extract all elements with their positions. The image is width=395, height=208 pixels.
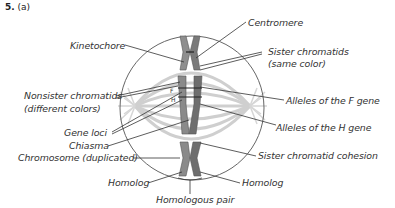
- label-alleles-f: Alleles of the F gene: [286, 96, 380, 105]
- chromosome-top: [180, 36, 200, 70]
- label-gene-loci: Gene loci: [64, 128, 107, 137]
- label-sister-chromatids-note: (same color): [268, 59, 326, 68]
- label-chiasma: Chiasma: [69, 141, 109, 150]
- label-alleles-h: Alleles of the H gene: [276, 123, 371, 132]
- chromosome-bottom: [178, 142, 202, 180]
- label-homolog-left: Homolog: [108, 178, 149, 187]
- label-homolog-right: Homolog: [242, 178, 283, 187]
- label-chromosome-duplicated: Chromosome (duplicated): [18, 153, 138, 162]
- label-centromere: Centromere: [248, 18, 303, 27]
- label-sister-chromatids: Sister chromatids: [268, 47, 349, 56]
- label-sister-chromatid-cohesion: Sister chromatid cohesion: [258, 151, 378, 160]
- label-nonsister-chromatids: Nonsister chromatids: [24, 91, 122, 100]
- allele-f-marker: F: [170, 87, 174, 94]
- label-homologous-pair: Homologous pair: [156, 195, 234, 204]
- label-nonsister-chromatids-note: (different colors): [24, 104, 101, 113]
- label-kinetochore: Kinetochore: [70, 41, 125, 50]
